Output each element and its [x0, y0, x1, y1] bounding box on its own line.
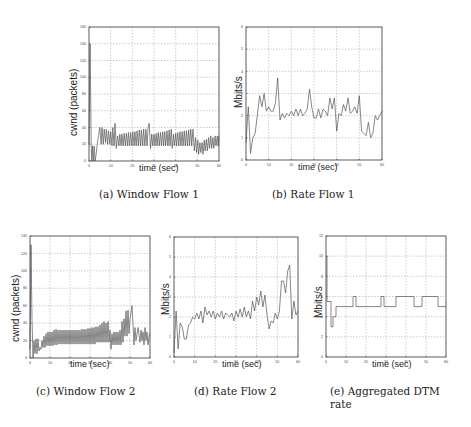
svg-text:50: 50 — [424, 360, 428, 364]
svg-text:10: 10 — [344, 360, 348, 364]
svg-text:2: 2 — [321, 335, 323, 339]
svg-text:12: 12 — [319, 234, 323, 238]
svg-text:20: 20 — [364, 360, 368, 364]
svg-text:60: 60 — [444, 360, 448, 364]
chart-aggregated-dtm-rate: 0102030405060024681012 Mbits/s time (sec… — [0, 0, 471, 427]
svg-text:10: 10 — [319, 254, 323, 258]
svg-text:8: 8 — [321, 275, 323, 279]
svg-text:0: 0 — [325, 360, 327, 364]
x-axis-label-e: time (sec) — [372, 359, 412, 369]
caption-e: (e) Aggregated DTM rate — [330, 385, 455, 411]
y-axis-label-e: Mbits/s — [313, 286, 324, 318]
svg-text:0: 0 — [321, 355, 323, 359]
